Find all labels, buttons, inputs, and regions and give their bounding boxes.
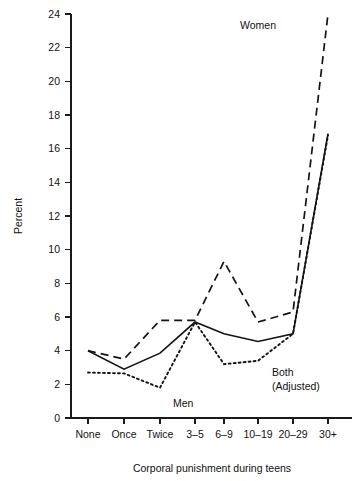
y-tick-label: 22 [48, 41, 60, 53]
series-line-men [88, 135, 328, 388]
y-tick-label: 14 [48, 176, 60, 188]
y-tick-label: 6 [54, 311, 60, 323]
x-tick-label: 10–19 [243, 428, 272, 440]
series-label-both-line1: Both [272, 366, 294, 378]
series-label-women: Women [240, 19, 276, 31]
y-tick-label: 8 [54, 277, 60, 289]
x-tick-label: Once [111, 428, 136, 440]
line-chart: 024681012141618202224 NoneOnceTwice3–56–… [0, 0, 359, 481]
y-tick-label: 12 [48, 210, 60, 222]
y-tick-label: 2 [54, 378, 60, 390]
x-tick-label: 6–9 [215, 428, 233, 440]
x-tick-label: 30+ [319, 428, 337, 440]
series-line-women [88, 14, 328, 359]
y-tick-label: 20 [48, 75, 60, 87]
y-axis-title: Percent [12, 198, 24, 234]
y-tick-label: 24 [48, 8, 60, 20]
series-group [88, 14, 328, 388]
x-tick-label: 3–5 [186, 428, 204, 440]
y-tick-label: 16 [48, 142, 60, 154]
chart-container: 024681012141618202224 NoneOnceTwice3–56–… [0, 0, 359, 481]
series-label-men: Men [173, 397, 194, 409]
y-tick-label: 4 [54, 344, 60, 356]
x-axis-ticks: NoneOnceTwice3–56–910–1920–2930+ [75, 418, 336, 440]
x-tick-label: None [75, 428, 100, 440]
y-tick-label: 18 [48, 109, 60, 121]
x-tick-label: Twice [147, 428, 174, 440]
y-axis: 024681012141618202224 [48, 8, 71, 424]
y-tick-label: 10 [48, 243, 60, 255]
series-line-both-adjusted [88, 134, 328, 370]
x-tick-label: 20–29 [278, 428, 307, 440]
y-axis-ticks: 024681012141618202224 [48, 8, 71, 424]
x-axis-title: Corporal punishment during teens [133, 462, 291, 474]
x-axis: NoneOnceTwice3–56–910–1920–2930+ [71, 418, 352, 440]
series-label-both-line2: (Adjusted) [272, 380, 320, 392]
y-tick-label: 0 [54, 412, 60, 424]
